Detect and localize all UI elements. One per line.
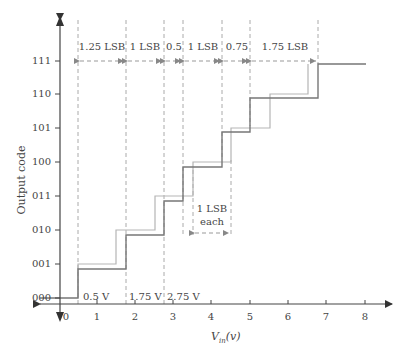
y-axis-arrow-icon xyxy=(56,16,64,26)
x-tick-label: 0 xyxy=(63,311,69,322)
x-axis-label: Vin(v) xyxy=(211,330,241,345)
bottom-annotations: 0.5 V 1.75 V 2.75 V xyxy=(83,291,200,302)
annotation-1.25lsb: 1.25 LSB xyxy=(79,41,125,52)
annotation-0.5v: 0.5 V xyxy=(83,291,110,302)
annotation-0.5: 0.5 xyxy=(166,41,182,52)
x-tick-labels: 0 1 2 3 4 5 6 7 8 xyxy=(63,311,368,322)
annotation-1lsb-b: 1 LSB xyxy=(188,41,218,52)
x-tick-label: 1 xyxy=(94,311,100,322)
y-tick-label: 100 xyxy=(32,156,51,167)
annotation-1lsb-each-line2: each xyxy=(200,216,224,227)
x-tick-label: 5 xyxy=(247,311,253,322)
y-tick-label: 001 xyxy=(32,258,51,269)
ideal-staircase xyxy=(78,64,308,298)
y-axis-label: Output code xyxy=(15,146,28,215)
annotation-2.75v: 2.75 V xyxy=(167,291,200,302)
x-tick-label: 2 xyxy=(132,311,138,322)
annotation-1lsb-each-line1: 1 LSB xyxy=(197,203,227,214)
annotation-1lsb-a: 1 LSB xyxy=(130,41,160,52)
x-tick-label: 7 xyxy=(323,311,329,322)
x-tick-label: 8 xyxy=(362,311,368,322)
x-tick-label: 3 xyxy=(170,311,176,322)
annotation-1.75lsb: 1.75 LSB xyxy=(262,41,308,52)
y-tick-label: 110 xyxy=(32,88,51,99)
mid-annotation: 1 LSB each xyxy=(197,203,227,227)
y-tick-labels: 000 001 010 011 100 101 110 111 xyxy=(32,55,51,303)
actual-staircase xyxy=(40,64,366,298)
y-tick-label: 011 xyxy=(32,190,51,201)
y-ticks xyxy=(55,61,60,298)
x-tick-label: 4 xyxy=(208,311,214,322)
y-tick-label: 111 xyxy=(32,55,51,66)
adc-transfer-diagram: 000 001 010 011 100 101 110 111 0 1 2 3 … xyxy=(0,0,417,356)
annotation-1.75v: 1.75 V xyxy=(129,291,162,302)
y-tick-label: 000 xyxy=(32,292,51,303)
y-tick-label: 010 xyxy=(32,224,51,235)
x-tick-label: 6 xyxy=(285,311,291,322)
top-annotations: 1.25 LSB 1 LSB 0.5 1 LSB 0.75 1.75 LSB xyxy=(79,41,308,52)
annotation-0.75: 0.75 xyxy=(226,41,248,52)
y-tick-label: 101 xyxy=(32,122,51,133)
